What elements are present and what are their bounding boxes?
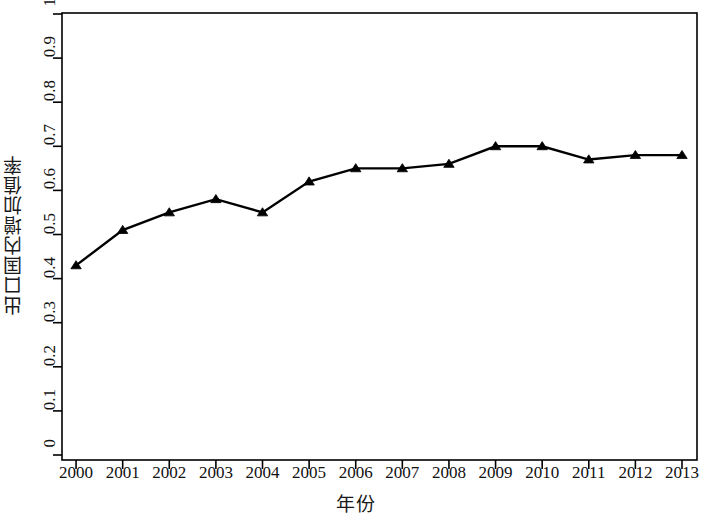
x-axis-tick-labels: 2000200120022003200420052006200720082009…: [0, 462, 712, 492]
x-axis-title: 年份: [0, 489, 712, 516]
x-axis-tick-label: 2013: [652, 462, 712, 484]
plot-area: [0, 0, 712, 523]
x-axis-title-text: 年份: [336, 494, 376, 515]
chart-figure: 出口国内增加值率 00.10.20.30.40.50.60.70.80.91 2…: [0, 0, 712, 523]
y-axis-ticks: [53, 14, 62, 455]
plot-box-border: [62, 13, 697, 460]
